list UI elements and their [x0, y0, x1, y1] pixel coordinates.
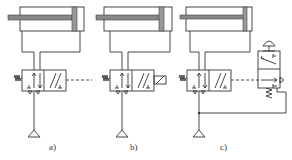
push-button-icon	[263, 41, 275, 46]
pneumatic-diagram: a) b)	[0, 0, 292, 160]
piston-c	[243, 7, 247, 31]
piston-rod-b	[96, 15, 160, 20]
label-b: b)	[130, 142, 138, 152]
piston-rod-c	[180, 15, 244, 19]
subfigure-a: a)	[8, 7, 92, 152]
pressure-source-icon	[28, 130, 40, 137]
spring-icon	[179, 75, 187, 81]
spring-icon	[102, 75, 110, 81]
pressure-source-icon	[116, 130, 128, 137]
piston-rod-a	[8, 15, 72, 20]
subfigure-c: c)	[179, 7, 286, 152]
exhaust-icon	[280, 77, 284, 83]
spring-icon	[266, 88, 272, 98]
piston-b	[159, 7, 164, 31]
subfigure-b: b)	[96, 7, 172, 152]
label-a: a)	[49, 142, 56, 152]
piston-a	[72, 7, 77, 31]
spring-icon	[14, 75, 22, 81]
pressure-source-icon	[193, 130, 205, 137]
label-c: c)	[220, 142, 227, 152]
